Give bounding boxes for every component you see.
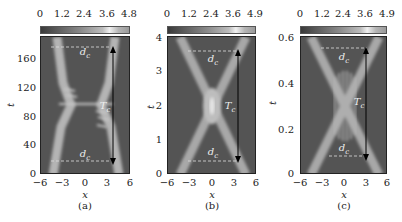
ytick: 0.4 [268,78,294,89]
dc-bottom-label-c: dc [339,142,349,156]
ylabel-c: t [267,101,278,105]
cbar-tick: 0 [164,8,170,19]
xlabel-c: x [341,189,347,200]
xtick: 3 [363,177,369,188]
cbar-tick: 2.4 [335,8,351,19]
cbar-tick: 1.2 [314,8,330,19]
xtick: −3 [315,177,330,188]
caption-c: (c) [337,200,350,211]
dc-top-label-c: dc [339,51,349,65]
ytick: 0 [268,168,294,179]
xlabel-b: x [209,189,215,200]
ytick: 0.2 [268,124,294,135]
cbar-tick: 0 [297,8,303,19]
xtick: −3 [182,177,197,188]
ytick: 4 [136,32,162,43]
xtick: 3 [231,177,237,188]
cbar-tick: 2.4 [203,8,219,19]
ytick: 1 [136,134,162,145]
cbar-tick: 1.2 [181,8,197,19]
heatmap-b: dc dc Tc [167,36,256,174]
xtick: −6 [293,177,308,188]
ytick: 3 [136,65,162,76]
xtick: 0 [209,177,215,188]
panel-c: 0 1.2 2.4 3.6 4.9 [0,0,134,222]
ytick: 0.6 [268,32,294,43]
heatmap-c: dc dc Tc [300,36,387,174]
xtick: −6 [160,177,175,188]
xtick: 6 [253,177,259,188]
tc-label-b: Tc [225,100,236,114]
colorbar-b [167,26,256,34]
xtick: 0 [341,177,347,188]
cbar-tick: 4.9 [247,8,263,19]
cbar-tick: 3.6 [357,8,373,19]
caption-b: (b) [205,200,219,211]
cbar-tick: 3.6 [225,8,241,19]
tc-label-c: Tc [354,96,365,110]
xtick: 6 [384,177,390,188]
ytick: 0 [136,168,162,179]
dc-top-label-b: dc [208,53,218,67]
cbar-tick: 4.9 [379,8,395,19]
colorbar-c [300,26,387,34]
ylabel-b: t [145,105,156,109]
dc-bottom-label-b: dc [208,146,218,160]
